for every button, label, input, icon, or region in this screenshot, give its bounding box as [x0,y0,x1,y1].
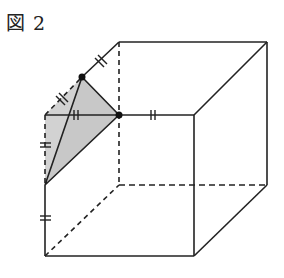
point-marker [116,112,123,119]
point-marker [79,74,86,81]
cube-diagram [0,0,284,278]
